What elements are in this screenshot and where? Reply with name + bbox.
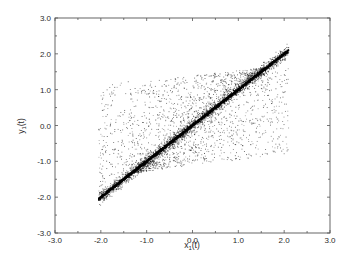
y-tick-labels: -3.0-2.0-1.00.01.02.03.0 bbox=[37, 14, 51, 238]
x-axis-label: x1(t) bbox=[184, 240, 200, 251]
y-tick-label: 2.0 bbox=[40, 50, 52, 59]
y-tick-label: 0.0 bbox=[40, 122, 52, 131]
y-tick-label: -3.0 bbox=[37, 229, 51, 238]
x-tick-label: 3.0 bbox=[324, 236, 336, 245]
y-tick-label: 1.0 bbox=[40, 86, 52, 95]
x-tick-label: 1.0 bbox=[233, 236, 245, 245]
y-tick-label: -1.0 bbox=[37, 157, 51, 166]
y-axis-label: y1(t) bbox=[16, 118, 27, 134]
x-tick-label: 2.0 bbox=[279, 236, 291, 245]
x-tick-label: -2.0 bbox=[94, 236, 108, 245]
scatter-points bbox=[98, 44, 289, 206]
y-tick-label: -2.0 bbox=[37, 193, 51, 202]
x-tick-label: -1.0 bbox=[140, 236, 154, 245]
scatter-chart: -3.0-2.0-1.00.01.02.03.0 -3.0-2.0-1.00.0… bbox=[0, 0, 350, 269]
y-tick-label: 3.0 bbox=[40, 14, 52, 23]
